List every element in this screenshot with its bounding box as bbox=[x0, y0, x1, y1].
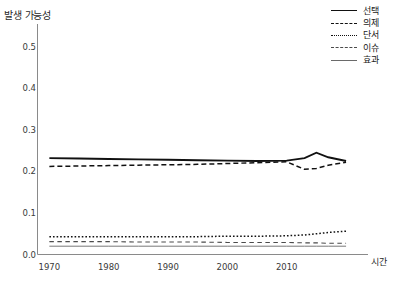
legend-line-icon bbox=[331, 30, 359, 40]
chart-container: 발생 가능성 시간 0.00.10.20.30.40.5 19701980199… bbox=[0, 0, 397, 287]
legend-label: 단서 bbox=[359, 28, 379, 41]
legend-item[interactable]: 의제 bbox=[331, 16, 397, 28]
legend-label: 선택 bbox=[359, 4, 379, 17]
legend-line-icon bbox=[331, 55, 359, 65]
series-line-단서 bbox=[49, 231, 346, 236]
legend-line-icon bbox=[331, 42, 359, 52]
series-line-선택 bbox=[49, 153, 346, 161]
legend-item[interactable]: 효과 bbox=[331, 54, 397, 66]
legend-label: 의제 bbox=[359, 16, 379, 29]
series-line-의제 bbox=[49, 162, 346, 169]
series-line-이슈 bbox=[49, 242, 346, 244]
chart-legend: 선택의제단서이슈효과 bbox=[331, 4, 397, 66]
legend-label: 이슈 bbox=[359, 41, 379, 54]
legend-label: 효과 bbox=[359, 53, 379, 66]
legend-item[interactable]: 단서 bbox=[331, 29, 397, 41]
legend-line-icon bbox=[331, 18, 359, 28]
legend-item[interactable]: 이슈 bbox=[331, 41, 397, 53]
legend-line-icon bbox=[331, 5, 359, 15]
legend-item[interactable]: 선택 bbox=[331, 4, 397, 16]
